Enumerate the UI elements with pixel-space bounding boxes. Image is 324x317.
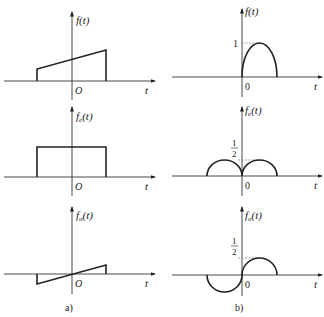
plot-a2-fe: fe(t) O t [4,107,155,196]
y-axis-label: fe(t) [245,104,262,118]
plot-b2-fe: fe(t) 1 2 0 t [172,104,322,196]
panel-caption-b: b) [235,302,243,314]
y-axis-label: f(t) [245,5,259,18]
y-axis-label: f(t) [76,14,90,27]
signal-curve [242,43,277,77]
x-axis-label: t [145,84,149,96]
tick-label-half-num: 1 [232,138,237,148]
origin-label: O [75,181,82,192]
plot-b3-fo: fo(t) 1 2 0 t b) [172,207,322,314]
signal-decomposition-figure: f(t) O t fe(t) O t fo(t) O t a) f(t) 1 0… [0,0,324,317]
x-axis-label: t [314,179,318,191]
origin-label: 0 [245,180,250,191]
tick-label-half-den: 2 [232,247,237,257]
plot-a1-f: f(t) O t [4,12,155,100]
origin-label: 0 [245,279,250,290]
signal-curve [37,147,106,177]
origin-label: O [75,278,82,289]
plot-a3-fo: fo(t) O t a) [4,207,155,314]
x-axis-label: t [314,278,318,290]
panel-caption-a: a) [65,302,73,314]
y-axis-label: fe(t) [76,110,93,124]
origin-label: 0 [245,81,250,92]
x-axis-label: t [145,180,149,192]
x-axis-label: t [314,80,318,92]
plot-b1-f: f(t) 1 0 t [172,5,322,97]
y-axis-label: fo(t) [76,209,93,223]
x-axis-label: t [145,277,149,289]
signal-curve [37,265,106,284]
signal-curve [37,50,106,81]
origin-label: O [75,85,82,96]
tick-label-half-num: 1 [232,236,237,246]
tick-label-half-den: 2 [232,149,237,159]
y-axis-label: fo(t) [245,209,262,223]
tick-label-1: 1 [233,38,238,49]
